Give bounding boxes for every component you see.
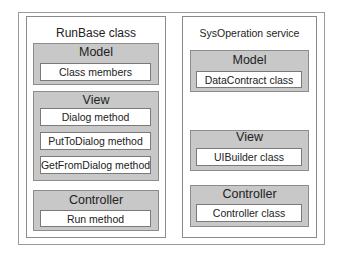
puttodialog-method-box: PutToDialog method [40,132,151,150]
sysoperation-view-title: View [190,130,309,144]
sysoperation-controller-title: Controller [190,187,309,201]
class-members-box: Class members [40,63,151,81]
run-method-box: Run method [40,210,151,227]
uibuilder-class-box: UIBuilder class [196,148,302,166]
datacontract-class-box: DataContract class [196,71,302,88]
runbase-controller-title: Controller [33,193,159,207]
runbase-panel-title: RunBase class [26,26,166,40]
getfromdialog-method-box: GetFromDialog method [40,156,151,174]
runbase-view-title: View [33,93,159,107]
runbase-model-title: Model [33,45,159,59]
dialog-method-box: Dialog method [40,108,151,126]
controller-class-box: Controller class [196,204,302,222]
sysoperation-panel-title: SysOperation service [182,27,317,39]
sysoperation-model-title: Model [190,53,309,67]
